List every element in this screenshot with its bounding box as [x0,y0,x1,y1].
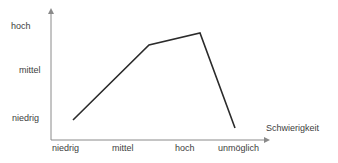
x-tick-label-unmoeglich: unmöglich [218,143,259,153]
y-tick-label-hoch: hoch [11,21,31,31]
chart: hoch mittel niedrig niedrig mittel hoch … [0,0,338,163]
y-tick-label-niedrig: niedrig [12,113,39,123]
x-tick-label-niedrig: niedrig [52,143,79,153]
data-line [73,33,235,128]
x-tick-label-hoch: hoch [175,143,195,153]
x-tick-label-mittel: mittel [112,143,134,153]
x-axis-arrow-icon [264,137,270,143]
x-axis-title: Schwierigkeit [266,123,320,133]
y-axis-arrow-icon [48,8,54,14]
y-tick-label-mittel: mittel [19,65,41,75]
